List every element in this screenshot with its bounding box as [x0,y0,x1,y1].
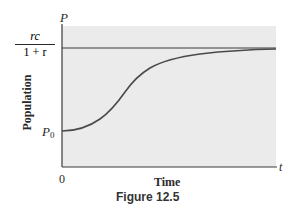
figure-caption: Figure 12.5 [116,190,179,204]
logistic-growth-chart: P rc 1 + r Population P0 0 t Time Figure… [0,0,289,209]
x-axis-symbol: t [279,160,282,175]
x-axis-label: Time [154,175,180,190]
asymptote-denominator: 1 + r [15,46,55,59]
plot-area [62,26,276,167]
asymptote-numerator: rc [15,30,55,43]
y-axis-symbol: P [60,10,68,26]
origin-label: 0 [59,172,65,187]
p0-main: P [42,124,50,139]
asymptote-label: rc 1 + r [15,30,55,59]
y-axis-label: Population [20,68,35,138]
p0-subscript: 0 [50,130,55,140]
initial-population-label: P0 [42,124,54,140]
